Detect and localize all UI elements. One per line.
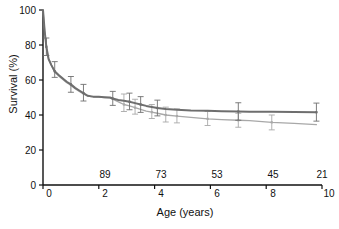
at-risk-count-8: 45 (261, 169, 285, 180)
y-tick-label-40: 40 (12, 110, 36, 121)
x-tick-label-4: 4 (149, 188, 173, 199)
y-tick-label-80: 80 (12, 40, 36, 51)
x-tick-label-8: 8 (261, 188, 285, 199)
at-risk-count-4: 73 (149, 169, 173, 180)
series-line-2 (43, 10, 316, 125)
x-axis-title: Age (years) (130, 206, 240, 218)
x-tick-label-0: 0 (37, 188, 61, 199)
y-tick-label-0: 0 (12, 180, 36, 191)
y-tick-label-20: 20 (12, 145, 36, 156)
error-bar-s2-0 (121, 94, 127, 112)
series-line-1 (43, 10, 316, 112)
at-risk-count-6: 53 (205, 169, 229, 180)
x-tick-label-2: 2 (93, 188, 117, 199)
x-tick-label-10: 10 (317, 188, 339, 199)
x-tick-label-6: 6 (205, 188, 229, 199)
at-risk-count-10: 21 (310, 169, 334, 180)
y-tick-label-60: 60 (12, 75, 36, 86)
at-risk-count-2: 89 (93, 169, 117, 180)
y-tick-label-100: 100 (12, 5, 36, 16)
